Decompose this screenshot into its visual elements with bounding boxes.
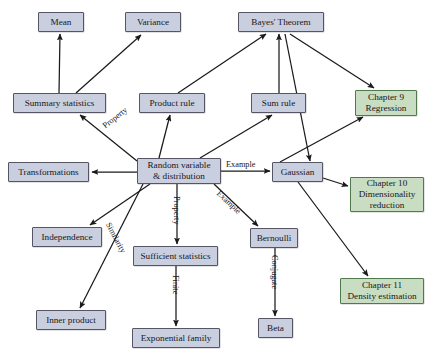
edge-label-label-property-sufficient: Property (172, 196, 181, 225)
edge-rv-to-product-rule (159, 115, 170, 158)
node-independence[interactable]: Independence (32, 227, 102, 247)
node-product_rule[interactable]: Product rule (139, 93, 205, 113)
node-exponential_family[interactable]: Exponential family (132, 328, 220, 348)
node-summary_statistics[interactable]: Summary statistics (13, 93, 106, 113)
node-chapter10[interactable]: Chapter 10 Dimensionality reduction (350, 177, 424, 212)
node-inner_product[interactable]: Inner product (36, 310, 106, 330)
edge-product-rule-to-bayes (178, 34, 266, 93)
node-sum_rule[interactable]: Sum rule (251, 93, 306, 113)
node-random_variable[interactable]: Random variable & distribution (137, 158, 221, 184)
node-beta[interactable]: Beta (258, 318, 293, 338)
edge-rv-to-independence (90, 184, 150, 225)
node-transformations[interactable]: Transformations (8, 162, 89, 182)
node-bernoulli[interactable]: Bernoulli (250, 228, 298, 248)
node-gaussian[interactable]: Gaussian (272, 162, 323, 182)
node-bayes[interactable]: Bayes' Theorem (238, 12, 324, 32)
node-variance[interactable]: Variance (125, 12, 181, 32)
node-sufficient_stats[interactable]: Sufficient statistics (133, 246, 218, 266)
edge-summary-to-mean (59, 34, 60, 93)
node-chapter11[interactable]: Chapter 11 Density estimation (340, 278, 424, 304)
edge-bayes-to-chapter9 (290, 34, 374, 88)
edge-label-label-conjugate: Conjugate (270, 255, 279, 289)
edge-gaussian-to-chapter9 (280, 117, 363, 162)
edge-label-label-finite: Finite (171, 275, 180, 294)
node-chapter9[interactable]: Chapter 9 Regression (355, 90, 417, 116)
edge-summary-to-variance (76, 35, 141, 93)
diagram-canvas: MeanVarianceBayes' TheoremSummary statis… (0, 0, 430, 356)
node-mean[interactable]: Mean (38, 12, 84, 32)
edge-gaussian-to-chapter10 (323, 178, 348, 186)
edge-label-label-example-gaussian: Example (226, 160, 256, 169)
edge-rv-to-sum-rule (200, 115, 272, 158)
